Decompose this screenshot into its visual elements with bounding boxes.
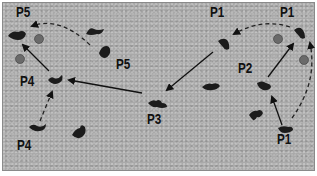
label-p3: P3	[147, 111, 161, 126]
ball-icon	[274, 35, 283, 44]
label-p4-bottom: P4	[17, 137, 31, 152]
arrow-p1-to-p2	[272, 97, 282, 125]
balls	[16, 35, 309, 65]
dashed-arrows	[32, 23, 312, 121]
arrow-p4-to-p5	[23, 45, 49, 71]
dashed-arrow-p1-top	[234, 24, 290, 34]
diagram-canvas: P5 P5 P4 P4 P3 P1 P1 P2 P1	[0, 0, 317, 176]
player-figure-icon	[202, 83, 220, 90]
label-p1-top-middle: P1	[210, 4, 224, 19]
label-p4-middle: P4	[20, 73, 34, 88]
label-p1-top-right: P1	[280, 4, 294, 19]
player-figure-icon	[72, 125, 86, 138]
ball-icon	[300, 56, 309, 65]
ball-icon	[35, 35, 44, 44]
label-p1-bottom-right: P1	[277, 131, 291, 146]
player-figure-icon	[48, 75, 63, 84]
player-figure-icon	[99, 46, 110, 58]
arrow-p2-to-p1	[268, 44, 293, 77]
label-p5-middle: P5	[116, 56, 130, 71]
arrow-p3-to-p4	[69, 80, 142, 93]
ball-icon	[16, 55, 25, 64]
dashed-arrow-p4	[40, 92, 52, 121]
player-figure-icon	[294, 28, 305, 39]
player-figure-icon	[8, 31, 26, 40]
label-p2: P2	[238, 60, 252, 75]
diagram-overlay	[0, 0, 317, 176]
dashed-arrow-p1-right	[292, 43, 312, 118]
player-figure-icon	[86, 28, 104, 35]
label-p5-top-left: P5	[16, 4, 30, 19]
player-figure-icon	[218, 39, 229, 50]
player-figure-icon	[249, 110, 263, 120]
player-figure-icon	[257, 82, 271, 91]
player-figure-icon	[29, 124, 46, 131]
player-figure-icon	[148, 100, 167, 108]
